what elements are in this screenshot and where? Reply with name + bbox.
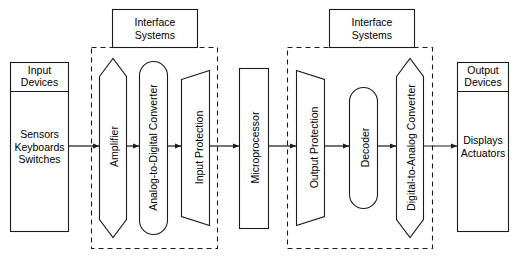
output-devices-box: [458, 63, 509, 232]
microprocessor-shape: [240, 69, 269, 229]
digital-to-analog-converter-shape: [397, 59, 424, 238]
interface-systems-output-label-box: [330, 10, 415, 48]
input-protection-shape: [182, 71, 210, 226]
diagram-canvas: Interface Systems Interface Systems Inpu…: [0, 0, 518, 266]
amplifier-shape: [100, 59, 127, 238]
input-devices-box: [11, 63, 69, 232]
decoder-shape: [350, 88, 378, 209]
output-protection-shape: [297, 71, 325, 226]
interface-systems-input-label-box: [113, 10, 198, 48]
analog-to-digital-converter-shape: [140, 62, 168, 235]
diagram-vector-layer: [0, 0, 518, 266]
